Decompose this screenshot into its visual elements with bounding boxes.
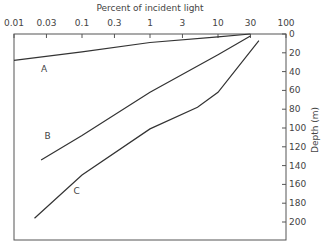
y-tick-label: 120 [289, 142, 306, 152]
y-tick-label: 100 [289, 123, 306, 133]
plot-frame [14, 34, 286, 240]
y-tick-label: 60 [289, 85, 301, 95]
x-tick-label: 0.03 [36, 18, 56, 28]
series-line-b [41, 36, 250, 160]
y-axis-label: Depth (m) [310, 107, 320, 153]
x-tick-label: 10 [212, 18, 224, 28]
x-axis-label: Percent of incident light [96, 3, 204, 13]
x-tick-label: 0.1 [75, 18, 89, 28]
x-tick-label: 0.3 [107, 18, 121, 28]
x-tick-label: 1 [147, 18, 153, 28]
series-line-c [35, 41, 259, 219]
y-tick-label: 140 [289, 161, 306, 171]
x-axis-ticks: 0.010.030.10.3131030100 [4, 18, 295, 38]
x-tick-label: 100 [277, 18, 294, 28]
y-tick-label: 180 [289, 198, 306, 208]
x-tick-label: 0.01 [4, 18, 24, 28]
x-tick-label: 30 [245, 18, 257, 28]
x-tick-label: 3 [180, 18, 186, 28]
y-tick-label: 40 [289, 67, 301, 77]
y-tick-label: 0 [289, 29, 295, 39]
y-tick-label: 20 [289, 48, 301, 58]
chart: Percent of incident light 0.010.030.10.3… [0, 0, 330, 251]
y-tick-label: 200 [289, 217, 306, 227]
series-lines: ABC [14, 34, 259, 218]
series-label-b: B [44, 131, 50, 141]
series-label-c: C [74, 186, 80, 196]
series-label-a: A [41, 64, 48, 74]
y-tick-label: 80 [289, 104, 301, 114]
y-tick-label: 160 [289, 179, 306, 189]
